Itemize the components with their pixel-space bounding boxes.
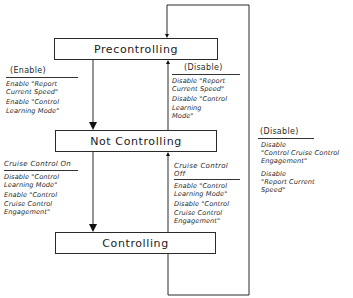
action-text: Enable "Control Learning Mode": [6, 98, 78, 114]
state-controlling: Controlling: [55, 232, 216, 254]
event-label: (Enable): [6, 66, 78, 76]
transition-label-disable: (Disable) Disable "Report Current Speed"…: [172, 63, 240, 122]
divider: [258, 138, 314, 139]
action-text: Enable "Control Learning Mode": [174, 182, 240, 198]
action-text: Disable "Control Cruise Control Engageme…: [174, 200, 240, 225]
transition-label-cruise-off: Cruise Control Off Enable "Control Learn…: [174, 162, 240, 227]
state-label: Not Controlling: [90, 135, 182, 148]
action-text: Disable "Control Cruise Control Engageme…: [258, 141, 348, 166]
event-label: (Disable): [258, 127, 348, 137]
event-label: Cruise Control Off: [174, 162, 240, 178]
action-text: Disable "Control Learning Mode": [4, 173, 78, 189]
action-text: Enable "Report Current Speed": [6, 80, 78, 96]
state-label: Precontrolling: [94, 43, 178, 56]
divider: [174, 179, 240, 180]
state-precontrolling: Precontrolling: [54, 38, 218, 60]
action-text: Disable "Report Current Speed": [172, 77, 240, 93]
event-label: (Disable): [172, 63, 240, 73]
transition-label-enable: (Enable) Enable "Report Current Speed" E…: [6, 66, 78, 117]
event-label: Cruise Control On: [4, 159, 78, 169]
action-text: Disable "Control Learning Mode": [172, 95, 240, 120]
state-not-controlling: Not Controlling: [55, 130, 217, 152]
divider: [6, 77, 78, 78]
divider: [172, 74, 240, 75]
transition-label-disable-loop: (Disable) Disable "Control Cruise Contro…: [258, 127, 348, 196]
transition-label-cruise-on: Cruise Control On Disable "Control Learn…: [4, 159, 78, 218]
action-text: Disable "Report Current Speed": [258, 170, 348, 195]
action-text: Enable "Control Cruise Control Engagemen…: [4, 191, 78, 216]
state-label: Controlling: [102, 237, 168, 250]
divider: [4, 170, 78, 171]
